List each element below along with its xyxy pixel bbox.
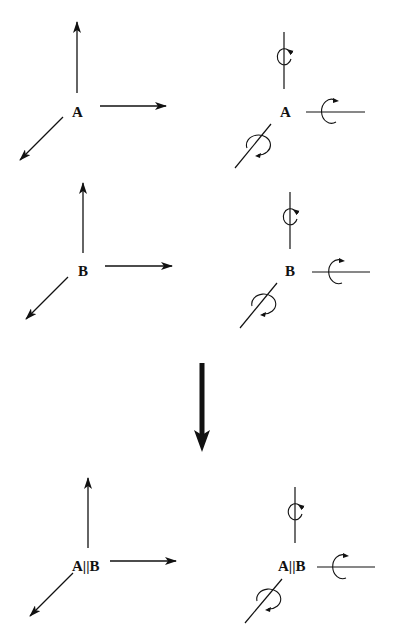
translation-group-ab: A||B — [30, 478, 176, 616]
rotation-axis-diagonal — [240, 283, 277, 328]
rotation-arrow-diagonal-icon — [246, 135, 270, 155]
rotation-arrow-diagonal-icon — [252, 294, 276, 314]
rotation-arrowhead — [260, 312, 266, 317]
translation-group-a: A — [20, 22, 166, 160]
rotation-arrow-horizontal-icon — [322, 99, 336, 123]
label-a-rotation: A — [280, 104, 291, 120]
rotation-axis-diagonal — [245, 579, 282, 623]
rotation-group-a: A — [235, 32, 365, 168]
rotation-arrowhead — [339, 258, 345, 263]
combination-arrow-down-icon — [194, 363, 210, 452]
label-b-translation: B — [78, 263, 88, 279]
label-ab-translation: A||B — [72, 558, 99, 574]
translation-group-b: B — [26, 183, 172, 319]
translation-arrow-downleft-icon — [20, 117, 63, 160]
rotation-arrowhead — [265, 607, 271, 612]
diagram-canvas: A A B B A||B — [0, 0, 396, 641]
rotation-arrowhead — [343, 553, 349, 558]
rotation-group-ab: A||B — [245, 487, 375, 623]
translation-arrow-downleft-icon — [26, 277, 68, 319]
label-ab-rotation: A||B — [278, 558, 305, 574]
rotation-arrow-diagonal-icon — [257, 589, 281, 609]
rotation-group-b: B — [240, 192, 370, 328]
label-a-translation: A — [72, 104, 83, 120]
rotation-arrowhead — [255, 153, 261, 158]
translation-arrow-downleft-icon — [30, 573, 73, 616]
rotation-arrowhead — [333, 98, 339, 103]
label-b-rotation: B — [285, 263, 295, 279]
rotation-axis-diagonal — [235, 124, 271, 168]
